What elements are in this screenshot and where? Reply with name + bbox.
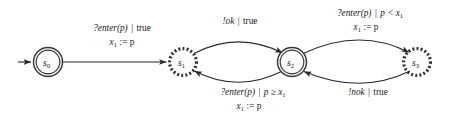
diagram-canvas: s0 s1 s2 s3: [0, 0, 451, 116]
automaton-diagram: s0 s1 s2 s3: [0, 0, 451, 116]
edge-label-s3-to-s2: !nok|true: [348, 87, 388, 97]
edge-label-s1-to-s2-line1: !ok|true: [222, 16, 257, 26]
edge-label-s0-to-s1-line1: ?enter(p)|true: [93, 23, 151, 34]
state-node-s3[interactable]: s3: [404, 49, 431, 76]
state-node-s0[interactable]: s0: [34, 48, 63, 77]
state-node-s1[interactable]: s1: [170, 49, 197, 76]
transition-s3-to-s2: [304, 72, 409, 84]
edge-label-s3-to-s2-line1: !nok|true: [348, 87, 388, 97]
edge-label-s0-to-s1: ?enter(p)|true x1:= p: [93, 23, 151, 48]
transition-s2-to-s1: [195, 71, 283, 82]
transition-s2-to-s3: [303, 40, 409, 54]
edge-label-s2-to-s3: ?enter(p)|p < x1 x1:= p: [337, 8, 403, 33]
edge-label-s2-to-s3-line1: ?enter(p)|p < x1: [337, 8, 403, 19]
edge-label-s2-to-s1-line1: ?enter(p)|p ≥ x1: [220, 87, 285, 98]
edges-layer: [18, 40, 409, 83]
edge-labels-layer: ?enter(p)|true x1:= p !ok|true ?enter(p)…: [93, 8, 403, 112]
edge-label-s2-to-s3-line2: x1:= p: [353, 22, 379, 33]
edge-label-s2-to-s1-line2: x1:= p: [236, 101, 262, 112]
state-node-s2[interactable]: s2: [278, 48, 307, 77]
edge-label-s0-to-s1-line2: x1:= p: [109, 37, 135, 48]
transition-s1-to-s2: [194, 42, 283, 54]
edge-label-s2-to-s1: ?enter(p)|p ≥ x1 x1:= p: [220, 87, 285, 112]
edge-label-s1-to-s2: !ok|true: [222, 16, 257, 26]
